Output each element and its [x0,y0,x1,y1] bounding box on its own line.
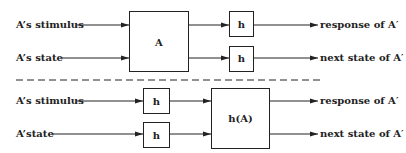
bottom-input-stimulus-label: A’s stimulus [15,95,84,106]
box-h-of-a-label: h(A) [228,113,253,124]
commutative-diagram: A’s stimulus A’s state A h h response of… [0,0,406,153]
top-diagram: A’s stimulus A’s state A h h response of… [15,12,404,72]
bottom-input-state-label: A’state [15,128,54,139]
bottom-output-response-label: response of A′ [320,95,399,106]
top-input-stimulus-label: A’s stimulus [15,19,84,30]
bottom-output-next-state-label: next state of A′ [320,128,404,139]
diagram-canvas: A’s stimulus A’s state A h h response of… [0,0,406,153]
top-h-box-2-label: h [238,53,246,64]
top-h-box-1-label: h [238,19,246,30]
bottom-h-box-1-label: h [153,96,161,107]
top-output-response-label: response of A′ [320,19,399,30]
bottom-diagram: A’s stimulus A’state h h h(A) response o… [15,89,404,149]
top-input-state-label: A’s state [15,52,63,63]
box-a-label: A [154,37,163,48]
bottom-h-box-2-label: h [153,130,161,141]
top-output-next-state-label: next state of A′ [320,52,404,63]
